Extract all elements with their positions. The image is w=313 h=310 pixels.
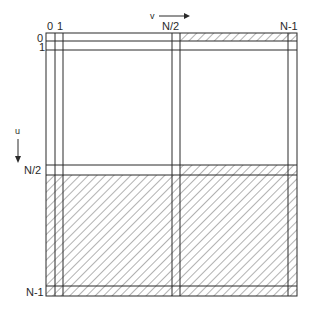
v-axis-label: v [150, 11, 155, 21]
row-label-1: 1 [39, 41, 45, 53]
row-label-n1: N-1 [26, 286, 44, 298]
col-label-n1: N-1 [280, 20, 298, 32]
row-label-n2: N/2 [24, 164, 41, 176]
col-label-n2: N/2 [162, 20, 179, 32]
u-axis-indicator: u [15, 126, 21, 163]
frequency-matrix-diagram: 0 1 N/2 N-1 0 1 N/2 N-1 v u [0, 0, 313, 310]
v-arrowhead-icon [184, 13, 190, 19]
u-axis-label: u [15, 126, 20, 136]
hatch-mid-right-row [180, 165, 297, 175]
hatch-top-right-row [180, 33, 297, 41]
col-label-0: 0 [47, 20, 53, 32]
col-label-1: 1 [57, 20, 63, 32]
u-arrowhead-icon [15, 156, 21, 163]
